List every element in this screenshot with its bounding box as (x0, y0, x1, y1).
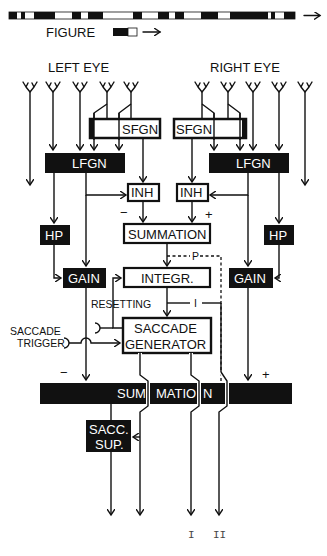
svg-text:LFGN: LFGN (72, 156, 107, 171)
saccadic-suppression-box: SACC. SUP. (86, 420, 131, 452)
svg-text:MATIO: MATIO (156, 386, 196, 401)
hp-left-box: HP (40, 225, 70, 245)
svg-text:SUMMATION: SUMMATION (128, 227, 206, 242)
svg-text:GAIN: GAIN (234, 271, 266, 286)
svg-text:GAIN: GAIN (68, 271, 100, 286)
resetting-synapse-icon (95, 323, 100, 333)
p-signal-label: P (192, 250, 199, 262)
svg-text:SACC.: SACC. (89, 422, 129, 437)
receptor-dendrite-icon (246, 82, 260, 92)
svg-text:SUM: SUM (117, 386, 146, 401)
inh-plus-sign: + (205, 207, 213, 222)
integrator-box: INTEGR. (124, 268, 210, 287)
receptor-dendrite-icon (100, 82, 114, 92)
bar-plus-sign: + (262, 367, 270, 382)
figure-white-segment (128, 28, 137, 36)
sfgn-right-box: SFGN (174, 119, 246, 138)
svg-text:N: N (203, 386, 212, 401)
svg-text:SFGN: SFGN (176, 122, 212, 137)
svg-text:GENERATOR: GENERATOR (125, 337, 206, 352)
svg-text:INH: INH (180, 185, 202, 200)
receptor-dendrite-icon (46, 82, 60, 92)
receptor-dendrite-icon (73, 82, 87, 92)
svg-text:SFGN: SFGN (122, 122, 158, 137)
receptor-dendrite-icon (298, 82, 312, 92)
receptor-dendrite-icon (124, 82, 138, 92)
right-eye-label: RIGHT EYE (210, 60, 280, 75)
svg-text:HP: HP (269, 228, 287, 243)
left-eye-receptors (23, 82, 138, 92)
svg-text:HP: HP (45, 228, 63, 243)
saccade-trigger-label-line2: TRIGGER (17, 337, 65, 349)
receptor-dendrite-icon (221, 82, 235, 92)
resetting-label: RESETTING (91, 298, 151, 310)
output-I-label: I (188, 529, 195, 541)
svg-text:INTEGR.: INTEGR. (141, 271, 194, 286)
inh-minus-sign: − (120, 205, 128, 220)
left-eye-label: LEFT EYE (48, 60, 110, 75)
svg-text:INH: INH (131, 185, 153, 200)
sfgn-left-box: SFGN (90, 119, 160, 138)
receptor-dendrite-icon (195, 82, 209, 92)
inh-left-box: INH (128, 184, 159, 201)
gain-left-box: GAIN (63, 268, 106, 288)
right-eye-receptors (195, 82, 312, 92)
receptor-dendrite-icon (23, 82, 37, 92)
motion-vision-model-diagram: FIGURE LEFT EYE RIGHT EYE SFGN SFGN LFGN (0, 0, 327, 556)
i-signal-label: I (194, 297, 197, 309)
gain-right-box: GAIN (229, 268, 273, 288)
saccade-trigger-label-line1: SACCADE (10, 325, 61, 337)
stimulus-stripe-bar (9, 12, 295, 19)
inh-right-box: INH (177, 184, 208, 201)
figure-black-segment (113, 28, 128, 36)
svg-text:LFGN: LFGN (236, 156, 271, 171)
output-II-label: II (213, 529, 226, 541)
lfgn-right-box: LFGN (209, 153, 289, 173)
figure-label: FIGURE (46, 25, 95, 40)
svg-text:SUP.: SUP. (95, 437, 124, 452)
bar-minus-sign: − (60, 365, 68, 380)
saccade-generator-box: SACCADE GENERATOR (123, 318, 211, 353)
lfgn-left-box: LFGN (45, 153, 125, 173)
summation-bar: SUM MATIO N (40, 383, 292, 404)
receptor-dendrite-icon (272, 82, 286, 92)
hp-right-box: HP (264, 225, 294, 245)
svg-text:SACCADE: SACCADE (134, 321, 197, 336)
summation-box: SUMMATION (124, 224, 210, 243)
